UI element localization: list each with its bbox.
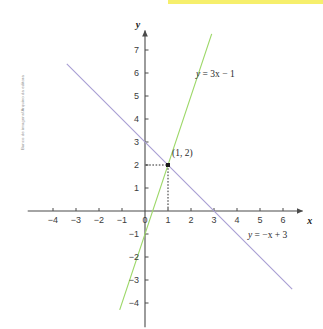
figure-canvas: Banco de imagens/Arquivo da editora −4−3… bbox=[0, 0, 323, 329]
axis-layer bbox=[28, 30, 303, 327]
curve-layer bbox=[67, 34, 292, 310]
coordinate-plane: −4−3−2−10123456−4−3−2−11234567xyy = 3x −… bbox=[0, 0, 323, 329]
x-tick-label: 0 bbox=[142, 215, 147, 225]
x-tick-label: 6 bbox=[280, 215, 285, 225]
label-layer: −4−3−2−10123456−4−3−2−11234567xyy = 3x −… bbox=[48, 19, 312, 308]
y-tick-label: 2 bbox=[134, 160, 139, 170]
y-tick-label: −3 bbox=[129, 275, 139, 285]
x-tick-label: 4 bbox=[234, 215, 239, 225]
x-tick-label: −3 bbox=[71, 215, 81, 225]
x-tick-label: 5 bbox=[257, 215, 262, 225]
intersection-point-label: (1, 2) bbox=[172, 148, 193, 159]
y-tick-label: −4 bbox=[129, 298, 139, 308]
y-tick-label: −2 bbox=[129, 252, 139, 262]
y-tick-label: 5 bbox=[134, 91, 139, 101]
y-tick-label: 4 bbox=[134, 114, 139, 124]
x-tick-label: −1 bbox=[117, 215, 127, 225]
x-tick-label: 3 bbox=[211, 215, 216, 225]
x-tick-label: 2 bbox=[188, 215, 193, 225]
series-label-expression: = 3x − 1 bbox=[200, 69, 235, 79]
series-label-2: y = −x + 3 bbox=[247, 230, 288, 240]
y-tick-label: 7 bbox=[134, 45, 139, 55]
x-tick-label: −2 bbox=[94, 215, 104, 225]
y-tick-label: 1 bbox=[134, 183, 139, 193]
x-axis-name: x bbox=[306, 215, 312, 226]
x-tick-label: −4 bbox=[48, 215, 58, 225]
y-tick-label: 6 bbox=[134, 68, 139, 78]
intersection-point bbox=[166, 163, 170, 167]
series-label-1: y = 3x − 1 bbox=[195, 69, 235, 79]
series-line-2 bbox=[67, 64, 292, 289]
y-tick-label: −1 bbox=[129, 229, 139, 239]
y-tick-label: 3 bbox=[134, 137, 139, 147]
series-label-expression: = −x + 3 bbox=[252, 230, 287, 240]
y-axis-name: y bbox=[135, 19, 141, 30]
x-tick-label: 1 bbox=[165, 215, 170, 225]
